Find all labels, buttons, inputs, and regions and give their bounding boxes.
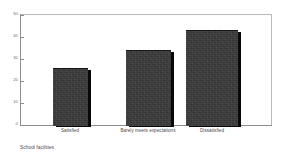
- y-axis-tick-label: 10: [13, 99, 18, 104]
- y-axis-tick-label: 30: [13, 55, 18, 60]
- y-axis-tick-mark: [20, 59, 24, 60]
- y-axis-tick: 30: [0, 59, 24, 60]
- bar-body: [186, 30, 238, 126]
- bar-body: [53, 68, 88, 126]
- y-axis-tick-mark: [20, 103, 24, 104]
- y-axis-tick: 50: [0, 15, 24, 16]
- y-axis-tick-label: 0: [16, 121, 18, 126]
- y-axis-tick: 40: [0, 37, 24, 38]
- y-axis-tick-mark: [20, 37, 24, 38]
- y-axis-tick-label: 40: [13, 33, 18, 38]
- y-axis-tick: 20: [0, 81, 24, 82]
- y-axis-tick-mark: [20, 125, 24, 126]
- bar-chart: 01020304050 SatisfiedBarely meets expect…: [0, 0, 282, 158]
- y-axis-tick: 0: [0, 125, 24, 126]
- y-axis-line: [20, 14, 21, 126]
- x-axis-label: Dissatisfied: [172, 128, 252, 134]
- chart-caption: School facilities: [20, 145, 54, 151]
- y-axis-tick-label: 20: [13, 77, 18, 82]
- bar: [53, 68, 88, 125]
- bar: [186, 30, 238, 125]
- bar: [126, 50, 171, 125]
- y-axis-tick-mark: [20, 15, 24, 16]
- y-axis-tick: 10: [0, 103, 24, 104]
- y-axis-tick-label: 50: [13, 11, 18, 16]
- bar-body: [126, 50, 171, 126]
- y-axis-tick-mark: [20, 81, 24, 82]
- x-axis-label: Satisfied: [30, 128, 110, 134]
